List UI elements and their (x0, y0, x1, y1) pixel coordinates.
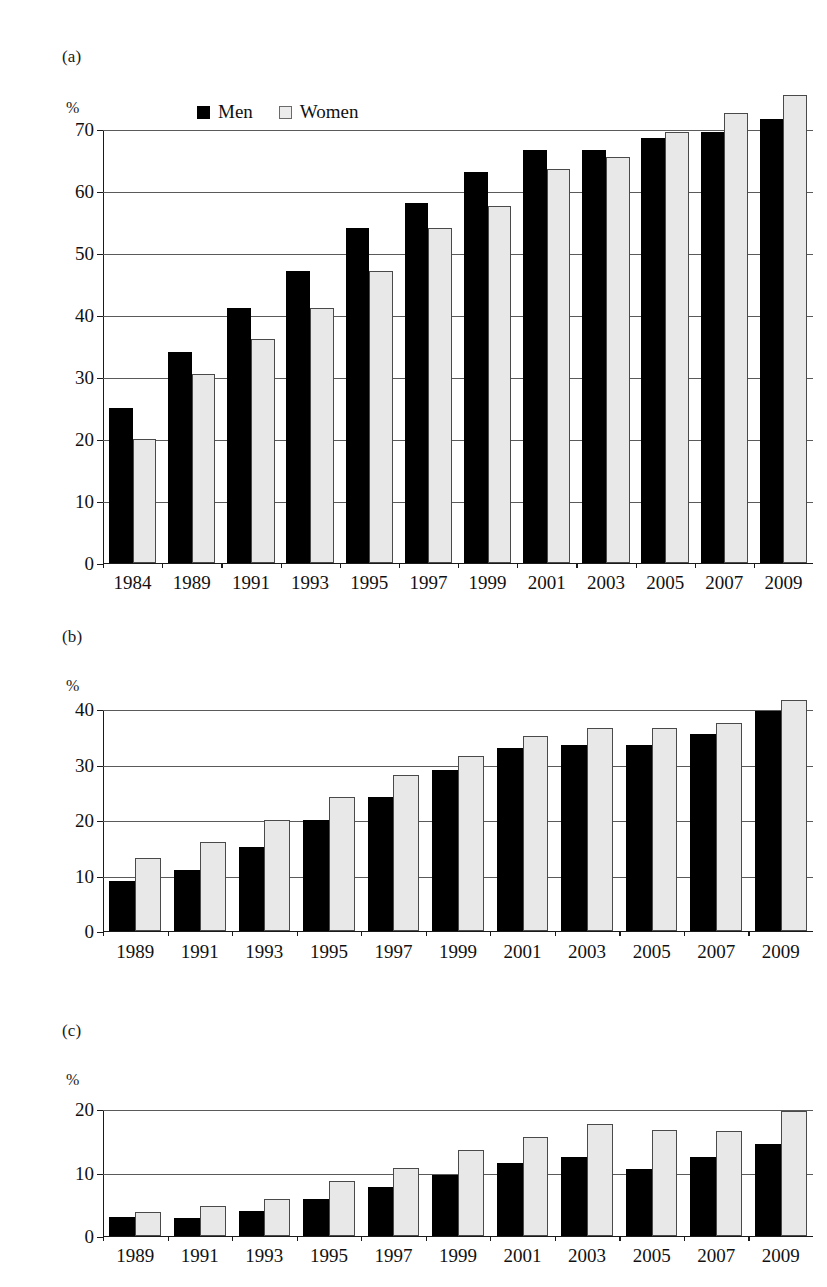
chart-a-x-tick-mark (517, 563, 518, 568)
chart-c-x-tick-mark (103, 1236, 104, 1241)
chart-b-x-label-2009: 2009 (748, 941, 813, 963)
chart-c-bar-women-2003 (587, 1124, 613, 1236)
chart-b-bar-group (490, 710, 555, 931)
chart-a-bar-women-1995 (369, 271, 393, 562)
chart-b-bar-men-1997 (368, 797, 394, 930)
chart-c-x-tick-mark (748, 1236, 749, 1241)
chart-c-x-tick-mark (555, 1236, 556, 1241)
chart-b-bar-women-2005 (652, 728, 678, 931)
chart-c-x-label-2005: 2005 (619, 1245, 684, 1267)
chart-c-x-label-1993: 1993 (232, 1245, 297, 1267)
chart-b-bar-men-1991 (174, 870, 200, 931)
chart-b-bar-women-1991 (200, 842, 226, 931)
chart-c-bar-group (619, 1110, 684, 1236)
chart-b-bars (103, 710, 813, 931)
chart-a-y-tick-label: 60 (75, 181, 94, 203)
chart-b-bar-men-1989 (109, 881, 135, 931)
chart-c-bar-women-2009 (781, 1111, 807, 1236)
chart-a-y-tick-label: 0 (85, 553, 95, 575)
chart-a-bar-men-2009 (760, 119, 784, 562)
chart-c-bar-men-1997 (368, 1187, 394, 1235)
chart-b-x-tick-mark (684, 931, 685, 936)
chart-b-x-label-2007: 2007 (684, 941, 749, 963)
chart-b-bar-men-1999 (432, 770, 458, 931)
chart-b-y-tick-label: 30 (75, 755, 94, 777)
chart-a-bar-women-2007 (724, 113, 748, 563)
chart-c-bar-group (361, 1110, 426, 1236)
chart-b-bar-women-1993 (264, 820, 290, 931)
chart-a-x-label-1999: 1999 (458, 572, 517, 594)
chart-c-x-tick-mark (168, 1236, 169, 1241)
panel-b-percent-label: % (66, 677, 79, 695)
chart-c-y-tick-label: 20 (75, 1099, 94, 1121)
chart-a-x-tick-mark (340, 563, 341, 568)
chart-a-bar-men-1993 (286, 271, 310, 562)
chart-c-bar-men-2007 (690, 1157, 716, 1236)
chart-c-x-tick-mark (490, 1236, 491, 1241)
open-square-icon (279, 106, 292, 119)
panel-a: (a) % Men Women 010203040506070 19841989… (0, 0, 827, 600)
legend-label-men: Men (218, 101, 253, 123)
chart-b-x-tick-mark (297, 931, 298, 936)
chart-a-bar-women-1989 (192, 374, 216, 563)
chart-a-x-tick-mark (754, 563, 755, 568)
chart-b-x-label-1991: 1991 (168, 941, 233, 963)
chart-a-x-tick-mark (695, 563, 696, 568)
chart-a-x-tick-mark (103, 563, 104, 568)
chart-a-bar-group (695, 130, 754, 563)
chart-b-y-tick-label: 20 (75, 810, 94, 832)
chart-a-bar-women-1999 (488, 206, 512, 563)
chart-a-y-tick-label: 20 (75, 429, 94, 451)
chart-c-bar-men-1991 (174, 1218, 200, 1236)
chart-a-bar-men-1991 (227, 308, 251, 562)
chart-b-x-label-2005: 2005 (619, 941, 684, 963)
chart-b-x-label-1997: 1997 (361, 941, 426, 963)
chart-a-x-axis-labels: 1984198919911993199519971999200120032005… (103, 572, 813, 594)
chart-c-bar-women-2005 (652, 1130, 678, 1235)
chart-a-x-tick-mark (458, 563, 459, 568)
chart-c-bar-women-1997 (393, 1168, 419, 1236)
chart-a-y-tick-label: 70 (75, 119, 94, 141)
chart-c-bar-group (232, 1110, 297, 1236)
chart-c-bar-women-1999 (458, 1150, 484, 1236)
chart-a-bar-women-1997 (428, 228, 452, 563)
chart-b-bar-women-1989 (135, 858, 161, 930)
chart-c-bar-men-1995 (303, 1199, 329, 1235)
chart-a-bar-men-2007 (701, 132, 725, 563)
chart-a-x-tick-mark (281, 563, 282, 568)
panel-c-percent-label: % (66, 1071, 79, 1089)
panel-a-percent-label: % (66, 99, 79, 117)
chart-c-bar-men-2005 (626, 1169, 652, 1236)
chart-c-bar-women-2007 (716, 1131, 742, 1236)
chart-a-x-tick-mark (162, 563, 163, 568)
chart-a-bar-women-1993 (310, 308, 334, 562)
chart-a-bar-group (221, 130, 280, 563)
chart-c-x-tick-mark (426, 1236, 427, 1241)
chart-b-x-tick-mark (232, 931, 233, 936)
chart-c-bar-group (103, 1110, 168, 1236)
legend-label-women: Women (300, 101, 359, 123)
panel-c-letter: (c) (62, 1021, 81, 1041)
chart-c-plot-area: 01020 (103, 1110, 813, 1237)
chart-c-x-label-1999: 1999 (426, 1245, 491, 1267)
chart-b-y-tick-label: 40 (75, 699, 94, 721)
chart-c-x-label-1989: 1989 (103, 1245, 168, 1267)
chart-a-x-label-1989: 1989 (162, 572, 221, 594)
chart-a-bar-men-1984 (109, 408, 133, 563)
chart-a-bar-men-1995 (346, 228, 370, 563)
chart-b-bar-men-2007 (690, 734, 716, 931)
chart-c-bar-group (684, 1110, 749, 1236)
chart-a-x-label-2003: 2003 (576, 572, 635, 594)
chart-b-x-tick-mark (619, 931, 620, 936)
chart-c-bars (103, 1110, 813, 1236)
chart-b-bar-men-1995 (303, 820, 329, 931)
chart-c-x-tick-mark (361, 1236, 362, 1241)
chart-c-x-label-2007: 2007 (684, 1245, 749, 1267)
chart-b-bar-women-1999 (458, 756, 484, 931)
legend-entry-women: Women (279, 101, 359, 123)
chart-b-bar-women-1995 (329, 797, 355, 930)
chart-a-x-tick-mark (399, 563, 400, 568)
chart-a-bar-men-2001 (523, 150, 547, 562)
chart-b-bar-group (361, 710, 426, 931)
chart-b-x-tick-mark (426, 931, 427, 936)
